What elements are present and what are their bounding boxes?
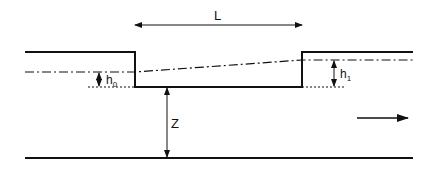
water-surface-line bbox=[25, 60, 413, 72]
downstream-depth-dimension: h1 bbox=[334, 61, 352, 86]
length-dimension: L bbox=[135, 8, 302, 25]
h1-label: h1 bbox=[340, 67, 352, 83]
z-label: Z bbox=[171, 116, 179, 131]
length-label: L bbox=[214, 8, 221, 23]
channel-diagram: L h0 h1 Z bbox=[0, 0, 435, 173]
h0-label: h0 bbox=[106, 73, 118, 89]
height-dimension: Z bbox=[167, 88, 179, 157]
channel-top-profile bbox=[25, 52, 413, 87]
